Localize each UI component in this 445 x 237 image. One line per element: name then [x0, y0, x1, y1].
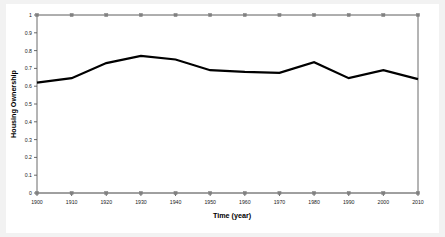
series-marker [174, 13, 177, 16]
x-tick-label: 1980 [308, 199, 320, 205]
x-tick-label: 1910 [66, 199, 78, 205]
chart-container: 00.10.20.30.40.50.60.70.80.91 1900191019… [0, 0, 445, 237]
y-tick-label: 0.3 [25, 137, 32, 143]
x-axis-group: 1900191019201930194019501960197019801990… [31, 15, 424, 205]
x-tick-label: 2010 [412, 199, 424, 205]
series-marker [70, 13, 73, 16]
series-marker [278, 191, 281, 194]
series-marker [416, 191, 419, 194]
series-marker [347, 13, 350, 16]
series-marker [382, 191, 385, 194]
series-marker [174, 191, 177, 194]
x-tick-label: 1940 [170, 199, 182, 205]
x-tick-label: 1960 [239, 199, 251, 205]
x-tick-label: 1950 [204, 199, 216, 205]
series-marker [105, 191, 108, 194]
y-tick-label: 0 [29, 190, 32, 196]
y-axis-tick-labels: 00.10.20.30.40.50.60.70.80.91 [25, 12, 32, 196]
series-marker [209, 13, 212, 16]
x-axis-tick-labels: 1900191019201930194019501960197019801990… [31, 199, 424, 205]
series-marker [243, 13, 246, 16]
x-tick-label: 1990 [343, 199, 355, 205]
series-marker [312, 13, 315, 16]
series-marker [312, 191, 315, 194]
series-marker [416, 13, 419, 16]
y-tick-label: 0.1 [25, 172, 32, 178]
y-tick-label: 0.5 [25, 101, 32, 107]
line-chart: 00.10.20.30.40.50.60.70.80.91 1900191019… [0, 0, 445, 237]
x-tick-label: 2000 [378, 199, 390, 205]
y-tick-label: 1 [29, 12, 32, 18]
data-series-group [35, 13, 419, 194]
series-marker [139, 13, 142, 16]
x-axis-title: Time (year) [213, 211, 252, 220]
x-tick-label: 1930 [135, 199, 147, 205]
series-marker [139, 191, 142, 194]
y-tick-label: 0.9 [25, 30, 32, 36]
series-marker [70, 191, 73, 194]
series-marker [35, 191, 38, 194]
x-tick-label: 1970 [274, 199, 286, 205]
series-marker [105, 13, 108, 16]
x-tick-label: 1920 [100, 199, 112, 205]
series-marker [243, 191, 246, 194]
y-tick-label: 0.7 [25, 65, 32, 71]
y-axis-group: 00.10.20.30.40.50.60.70.80.91 [25, 12, 37, 196]
series-marker [35, 13, 38, 16]
y-tick-label: 0.6 [25, 83, 32, 89]
series-marker [382, 13, 385, 16]
series-line [37, 56, 418, 83]
series-marker [209, 191, 212, 194]
series-marker [278, 13, 281, 16]
y-axis-title: Housing Ownership [9, 69, 18, 137]
y-tick-label: 0.4 [25, 119, 32, 125]
series-marker [347, 191, 350, 194]
x-tick-label: 1900 [31, 199, 43, 205]
y-tick-label: 0.8 [25, 48, 32, 54]
y-tick-label: 0.2 [25, 154, 32, 160]
